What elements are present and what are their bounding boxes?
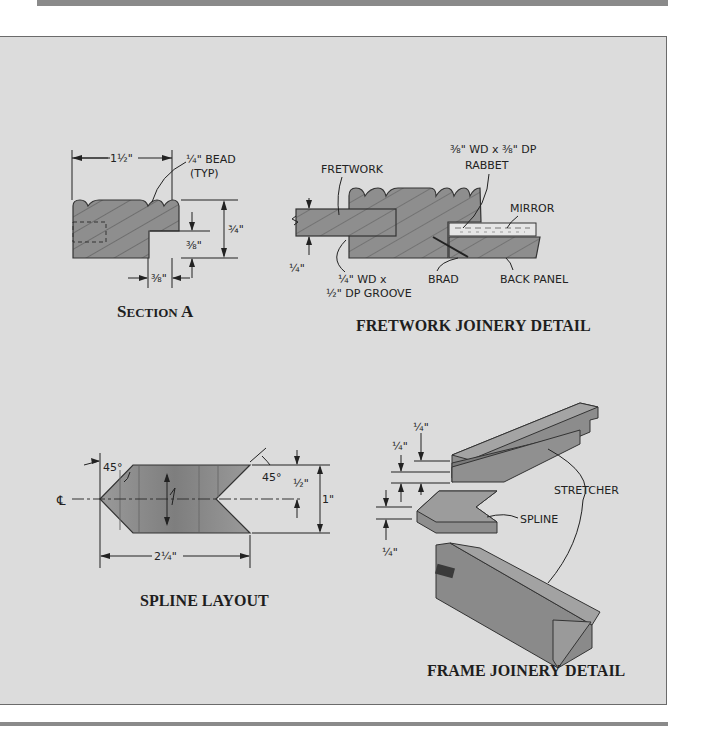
section-a-figure: 1½" ¼" BEAD (TYP) ¾" ⅜" ⅜" SECTION A bbox=[72, 150, 244, 321]
section-a-rabbet-width-label: ⅜" bbox=[151, 272, 167, 285]
stretcher-label: STRETCHER bbox=[554, 484, 619, 497]
frame-mid-dim-label: ¼" bbox=[392, 440, 408, 453]
fretwork-thickness-label: ¼" bbox=[289, 262, 305, 275]
spline-layout-figure: ℄ 45° 45° ½" 1" 2¼" bbox=[56, 448, 334, 609]
length-label: 2¼" bbox=[154, 550, 177, 563]
centerline-symbol: ℄ bbox=[56, 493, 66, 508]
frame-top-dim-label: ¼" bbox=[413, 421, 429, 434]
fretwork-joinery-figure: ¼" FRETWORK ⅜" WD x ⅜" DP RABBET MIRROR … bbox=[289, 143, 591, 334]
section-a-rabbet-depth-label: ⅜" bbox=[186, 239, 202, 252]
section-a-caption: SECTION A bbox=[117, 302, 194, 321]
brad-label: BRAD bbox=[428, 273, 459, 286]
groove-label-line1: ¼" WD x bbox=[338, 273, 387, 286]
spline-label: SPLINE bbox=[520, 513, 558, 526]
section-a-width-label: 1½" bbox=[110, 152, 133, 165]
spline-layout-caption: SPLINE LAYOUT bbox=[140, 592, 269, 609]
full-height-label: 1" bbox=[322, 493, 334, 506]
mirror-label: MIRROR bbox=[510, 202, 555, 215]
fretwork-label: FRETWORK bbox=[321, 163, 384, 176]
technical-drawings: 1½" ¼" BEAD (TYP) ¾" ⅜" ⅜" SECTION A bbox=[0, 0, 704, 748]
frame-joinery-figure: ¼" ¼" ¼" STRETCHER SPLINE FRAME JOINERY … bbox=[376, 403, 625, 679]
half-height-label: ½" bbox=[293, 477, 309, 490]
back-panel-label: BACK PANEL bbox=[500, 273, 569, 286]
groove-label-line2: ½" DP GROOVE bbox=[326, 287, 412, 300]
section-a-bead-label: ¼" BEAD bbox=[186, 153, 236, 166]
fretwork-joinery-caption: FRETWORK JOINERY DETAIL bbox=[356, 317, 591, 334]
left-angle-label: 45° bbox=[103, 461, 123, 474]
section-a-height-label: ¾" bbox=[228, 223, 244, 236]
right-angle-label: 45° bbox=[262, 471, 282, 484]
rabbet-label-line1: ⅜" WD x ⅜" DP bbox=[450, 143, 537, 156]
section-a-bead-typ-label: (TYP) bbox=[190, 167, 219, 180]
frame-bottom-dim-label: ¼" bbox=[382, 546, 398, 559]
frame-joinery-caption: FRAME JOINERY DETAIL bbox=[427, 662, 625, 679]
rabbet-label-line2: RABBET bbox=[465, 159, 509, 172]
